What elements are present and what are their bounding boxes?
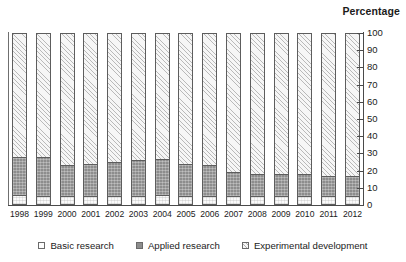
- x-axis-labels: 1998199920002001200220032004200520062007…: [8, 209, 363, 223]
- bar-segment-exp: [131, 33, 146, 160]
- bar-2011: [321, 33, 336, 205]
- y-tick-label: 10: [367, 183, 378, 193]
- chart-title: Percentage: [342, 5, 400, 17]
- bar-segment-exp: [107, 33, 122, 162]
- y-tick: [357, 67, 363, 68]
- x-tick-label-2006: 2006: [199, 209, 220, 220]
- legend-item-exp[interactable]: Experimental development: [242, 240, 368, 251]
- y-tick-label: 60: [367, 97, 378, 107]
- y-tick-label: 0: [367, 200, 372, 210]
- bar-segment-basic: [226, 196, 241, 205]
- bar-2005: [178, 33, 193, 205]
- legend-swatch-basic-icon: [38, 242, 45, 249]
- x-tick-label-2004: 2004: [152, 209, 173, 220]
- bar-segment-applied: [274, 174, 289, 196]
- bar-2002: [107, 33, 122, 205]
- bar-1998: [12, 33, 27, 205]
- y-tick-label: 100: [367, 28, 383, 38]
- bar-segment-applied: [226, 172, 241, 196]
- bar-2004: [155, 33, 170, 205]
- bar-segment-exp: [178, 33, 193, 164]
- bar-segment-exp: [226, 33, 241, 172]
- bar-segment-basic: [131, 196, 146, 205]
- bar-segment-basic: [155, 195, 170, 205]
- bar-segment-exp: [202, 33, 217, 165]
- x-tick-label-2008: 2008: [247, 209, 268, 220]
- bar-2010: [297, 33, 312, 205]
- y-axis: 0102030405060708090100: [357, 33, 406, 205]
- x-tick-label-1998: 1998: [9, 209, 30, 220]
- chart-legend: Basic researchApplied researchExperiment…: [0, 240, 406, 251]
- bar-segment-applied: [297, 174, 312, 196]
- bar-2007: [226, 33, 241, 205]
- bar-segment-basic: [321, 196, 336, 205]
- bar-2006: [202, 33, 217, 205]
- bar-2003: [131, 33, 146, 205]
- x-tick-label-2007: 2007: [223, 209, 244, 220]
- y-tick-label: 50: [367, 114, 378, 124]
- bar-segment-basic: [250, 196, 265, 205]
- bar-segment-basic: [202, 196, 217, 205]
- bar-segment-applied: [321, 176, 336, 197]
- bar-segment-applied: [131, 160, 146, 196]
- y-tick-label: 90: [367, 45, 378, 55]
- x-tick-label-2009: 2009: [271, 209, 292, 220]
- bar-segment-basic: [107, 196, 122, 205]
- x-tick-label-2005: 2005: [175, 209, 196, 220]
- bar-segment-exp: [274, 33, 289, 174]
- bar-segment-exp: [12, 33, 27, 157]
- legend-label: Experimental development: [254, 240, 368, 251]
- plot-area: [8, 33, 363, 205]
- y-tick-label: 40: [367, 131, 378, 141]
- y-tick-label: 20: [367, 166, 378, 176]
- y-tick: [357, 119, 363, 120]
- bar-segment-applied: [60, 165, 75, 196]
- bar-segment-basic: [178, 196, 193, 205]
- chart-root: Percentage 0102030405060708090100 199819…: [0, 0, 406, 262]
- bar-segment-exp: [297, 33, 312, 174]
- bar-segment-basic: [12, 195, 27, 205]
- y-tick-label: 70: [367, 80, 378, 90]
- y-tick: [357, 205, 363, 206]
- legend-swatch-exp-icon: [242, 242, 249, 249]
- bar-2001: [83, 33, 98, 205]
- y-tick: [357, 33, 363, 34]
- y-tick-label: 80: [367, 63, 378, 73]
- bar-segment-applied: [178, 164, 193, 197]
- bar-segment-applied: [36, 157, 51, 197]
- x-tick-label-2002: 2002: [104, 209, 125, 220]
- bar-segment-exp: [83, 33, 98, 164]
- legend-swatch-applied-icon: [136, 242, 143, 249]
- bar-segment-exp: [250, 33, 265, 174]
- bar-segment-basic: [297, 196, 312, 205]
- bar-2008: [250, 33, 265, 205]
- bar-segment-exp: [321, 33, 336, 176]
- bar-segment-applied: [83, 164, 98, 197]
- bar-segment-applied: [12, 157, 27, 195]
- legend-label: Basic research: [50, 240, 113, 251]
- legend-item-applied[interactable]: Applied research: [136, 240, 220, 251]
- x-tick-label-1999: 1999: [33, 209, 54, 220]
- y-tick: [357, 171, 363, 172]
- bar-segment-applied: [250, 174, 265, 196]
- bar-segment-exp: [60, 33, 75, 165]
- y-tick: [357, 102, 363, 103]
- x-axis-line: [8, 205, 364, 206]
- legend-item-basic[interactable]: Basic research: [38, 240, 113, 251]
- bar-segment-basic: [274, 196, 289, 205]
- y-tick: [357, 85, 363, 86]
- y-tick: [357, 50, 363, 51]
- bar-segment-applied: [107, 162, 122, 196]
- bar-2000: [60, 33, 75, 205]
- bar-2009: [274, 33, 289, 205]
- y-tick: [357, 136, 363, 137]
- bar-group: [8, 33, 363, 205]
- y-tick-label: 30: [367, 149, 378, 159]
- x-tick-label-2011: 2011: [318, 209, 339, 220]
- x-tick-label-2010: 2010: [294, 209, 315, 220]
- y-tick: [357, 153, 363, 154]
- x-tick-label-2001: 2001: [80, 209, 101, 220]
- bar-1999: [36, 33, 51, 205]
- x-tick-label-2000: 2000: [57, 209, 78, 220]
- x-tick-label-2003: 2003: [128, 209, 149, 220]
